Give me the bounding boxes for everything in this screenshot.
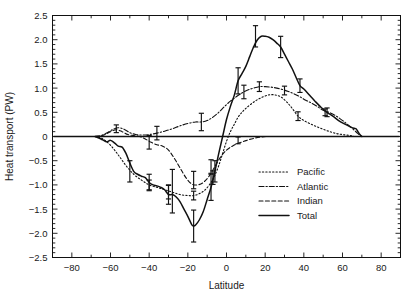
x-tick-label: 20 <box>260 262 271 273</box>
y-tick-label: 2.0 <box>34 34 47 45</box>
error-bar-total <box>278 36 283 57</box>
legend-label-atlantic: Atlantic <box>297 181 328 192</box>
y-tick-label: −2.5 <box>29 252 48 263</box>
heat-transport-chart: −80−60−40−20020406080−2.5−2.0−1.5−1.0−0.… <box>0 0 419 298</box>
x-tick-label: −20 <box>180 262 196 273</box>
y-tick-label: 2.5 <box>34 10 47 21</box>
legend-label-pacific: Pacific <box>297 166 325 177</box>
error-bar-total <box>127 161 132 182</box>
y-tick-label: 1.0 <box>34 83 47 94</box>
error-bar-total <box>253 26 258 47</box>
y-tick-label: 0 <box>42 131 47 142</box>
y-tick-label: −1.5 <box>29 204 48 215</box>
legend-label-total: Total <box>297 210 317 221</box>
x-axis-title: Latitude <box>209 280 245 291</box>
x-tick-label: −40 <box>141 262 157 273</box>
legend-label-indian: Indian <box>297 195 323 206</box>
y-tick-label: −0.5 <box>29 155 48 166</box>
x-tick-label: −80 <box>64 262 80 273</box>
y-axis-title: Heat transport (PW) <box>4 92 15 181</box>
error-bar-atlantic <box>241 85 246 99</box>
x-tick-label: 80 <box>376 262 387 273</box>
x-tick-label: 40 <box>299 262 310 273</box>
error-bar-indian <box>191 171 196 188</box>
error-bar-pacific <box>191 191 196 200</box>
x-tick-label: 60 <box>337 262 348 273</box>
y-tick-label: 0.5 <box>34 107 47 118</box>
error-bar-pacific <box>147 180 152 190</box>
series-line-indian <box>95 130 277 185</box>
y-tick-label: 1.5 <box>34 58 47 69</box>
x-tick-label: −60 <box>102 262 118 273</box>
y-tick-label: −2.0 <box>29 228 48 239</box>
y-tick-label: −1.0 <box>29 179 48 190</box>
x-tick-label: 0 <box>224 262 229 273</box>
chart-canvas: −80−60−40−20020406080−2.5−2.0−1.5−1.0−0.… <box>0 0 419 298</box>
